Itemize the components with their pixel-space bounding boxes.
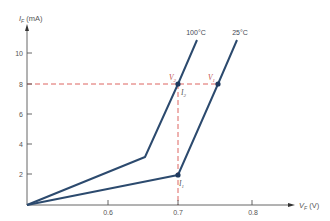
y-ticks (27, 53, 32, 174)
curve-25c (27, 40, 237, 205)
y-tick-label-4: 4 (19, 141, 23, 148)
x-ticks (108, 200, 252, 205)
diode-iv-chart: 10 8 6 4 2 0.6 0.7 0.8 IF (mA) VF (V) 10… (0, 0, 330, 221)
y-axis-arrow-icon (25, 24, 29, 31)
x-tick-label-0.8: 0.8 (248, 209, 258, 216)
label-i1: I1 (178, 179, 184, 189)
y-tick-label-10: 10 (15, 50, 23, 57)
x-tick-label-0.7: 0.7 (173, 209, 183, 216)
series-label-100c: 100°C (186, 29, 206, 36)
x-axis-title: VF (V) (299, 201, 320, 211)
y-tick-label-2: 2 (19, 171, 23, 178)
x-tick-label-0.6: 0.6 (103, 209, 113, 216)
series-label-25c: 25°C (232, 29, 248, 36)
point-v1 (215, 81, 220, 86)
y-axis-title: IF (mA) (19, 14, 43, 24)
y-tick-label-8: 8 (19, 81, 23, 88)
label-v2: V2 (169, 73, 177, 83)
label-v1: V1 (208, 73, 215, 83)
label-i2: I2 (180, 88, 187, 98)
curve-100c (27, 40, 197, 205)
y-tick-label-6: 6 (19, 111, 23, 118)
x-axis-arrow-icon (288, 203, 295, 207)
point-i1 (175, 172, 180, 177)
point-v2-i2 (175, 81, 180, 86)
